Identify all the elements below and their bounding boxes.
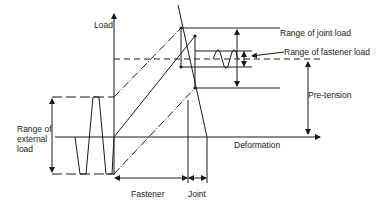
- range-external-load-label-2: external: [17, 134, 47, 144]
- range-external-load-label-1: Range of: [17, 124, 52, 134]
- joint-line: [178, 5, 207, 137]
- load-axis-label: Load: [94, 20, 113, 30]
- pre-tension-label: Pre-tension: [308, 90, 351, 100]
- range-external-load-label-3: load: [17, 144, 33, 154]
- range-joint-load-label: Range of joint load: [280, 28, 351, 38]
- fastener-line-upper: [114, 28, 181, 97]
- external-load-wave: [75, 97, 114, 174]
- fastener-label: Fastener: [131, 189, 165, 199]
- fastener-line-mid: [114, 36, 195, 137]
- deformation-axis-label: Deformation: [234, 140, 280, 150]
- joint-label: Joint: [188, 189, 206, 199]
- fastener-line-lower: [114, 88, 195, 174]
- range-fastener-load-label: Range of fastener load: [284, 47, 370, 57]
